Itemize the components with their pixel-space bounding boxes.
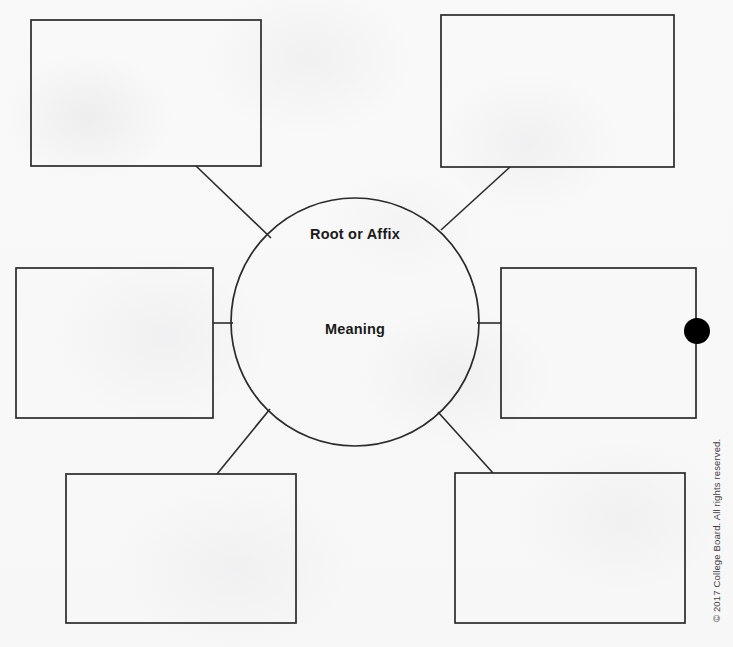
center-circle-label-root: Root or Affix xyxy=(236,225,474,243)
box-middle-left[interactable] xyxy=(16,268,213,418)
copyright-text: © 2017 College Board. All rights reserve… xyxy=(711,439,722,622)
box-bottom-left[interactable] xyxy=(66,474,296,623)
box-top-left[interactable] xyxy=(31,20,261,166)
box-top-right[interactable] xyxy=(441,15,674,167)
selection-dot-icon[interactable] xyxy=(684,318,710,344)
box-middle-right[interactable] xyxy=(501,268,696,418)
box-bottom-right[interactable] xyxy=(455,473,685,623)
connector-top-right xyxy=(441,167,510,230)
center-circle-label-meaning: Meaning xyxy=(236,320,474,338)
connector-bottom-right xyxy=(438,412,493,473)
worksheet-canvas: Root or Affix Meaning © 2017 College Boa… xyxy=(0,0,733,647)
answer-boxes xyxy=(16,15,696,623)
connector-bottom-left xyxy=(217,409,270,474)
copyright-notice: © 2017 College Board. All rights reserve… xyxy=(711,382,733,622)
